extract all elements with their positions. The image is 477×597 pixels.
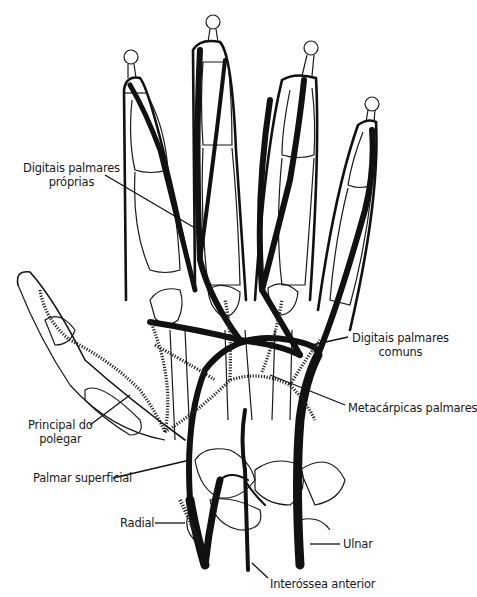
ulnar-artery [298, 355, 319, 565]
label-digitais-palmares-proprias: Digitais palmares próprias [23, 161, 120, 189]
label-line-1: Digitais palmares [352, 331, 449, 345]
little-finger-outline [318, 121, 376, 330]
label-line-2: próprias [23, 175, 120, 189]
label-metacarpicas-palmares: Metacárpicas palmares [348, 401, 477, 415]
label-ulnar: Ulnar [343, 537, 373, 551]
arteries [130, 50, 373, 570]
anterior-interosseous-artery [243, 410, 249, 570]
label-digitais-palmares-comuns: Digitais palmares comuns [352, 331, 449, 359]
label-radial: Radial [120, 516, 154, 530]
label-interossea-anterior: Interóssea anterior [270, 577, 375, 591]
label-line-2: polegar [28, 432, 93, 446]
label-palmar-superficial: Palmar superficial [33, 471, 132, 485]
label-principal-do-polegar: Principal do polegar [28, 418, 93, 446]
label-line-1: Digitais palmares [23, 161, 120, 175]
label-line-1: Principal do [28, 418, 93, 432]
label-line-2: comuns [352, 345, 449, 359]
palmar-metacarpal-arteries [150, 300, 320, 432]
